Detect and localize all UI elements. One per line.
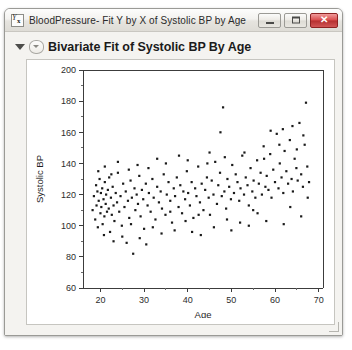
data-point [136,193,138,195]
x-tick-label: 60 [270,295,280,305]
data-point [165,162,167,164]
data-point [103,234,105,236]
data-point [117,172,119,174]
data-point [230,198,232,200]
data-point [251,190,253,192]
data-point [174,195,176,197]
data-point [194,187,196,189]
data-point [143,228,145,230]
data-point [110,197,112,199]
data-point [142,198,144,200]
data-point [226,218,228,220]
data-point [279,162,281,164]
data-point [107,189,109,191]
minimize-button[interactable] [258,13,281,28]
data-point [103,215,105,217]
data-point [213,226,215,228]
window-titlebar[interactable]: Y x BloodPressure- Fit Y by X of Systoli… [5,9,342,32]
outline-badge-icon[interactable] [29,40,44,54]
data-point [94,218,96,220]
data-point [112,240,114,242]
window-title: BloodPressure- Fit Y by X of Systolic BP… [29,15,258,26]
data-point [297,179,299,181]
data-point [283,223,285,225]
data-point [219,172,221,174]
x-tick-label: 20 [95,295,105,305]
data-point [102,223,104,225]
data-point [219,131,221,133]
data-point [295,167,297,169]
data-point [179,184,181,186]
data-point [302,186,304,188]
data-point [224,156,226,158]
data-point [276,133,278,135]
x-tick-label: 50 [226,295,236,305]
data-point [156,158,158,160]
axes-layer [79,70,323,292]
data-point [105,203,107,205]
data-point [178,155,180,157]
data-point [161,207,163,209]
data-point [200,234,202,236]
data-point [238,200,240,202]
data-point [256,159,258,161]
data-point [258,183,260,185]
close-icon: ✕ [320,15,328,25]
data-point [151,178,153,180]
data-point [245,176,247,178]
close-button[interactable]: ✕ [310,13,338,28]
data-point [195,195,197,197]
data-point [167,181,169,183]
data-point [217,184,219,186]
data-point [93,195,95,197]
data-point [156,186,158,188]
data-point [140,215,142,217]
data-point [233,192,235,194]
data-point [197,165,199,167]
data-point [191,181,193,183]
data-point [108,207,110,209]
y-tick-label: 60 [66,283,76,293]
data-point [106,211,108,213]
data-point [243,151,245,153]
data-point [201,183,203,185]
data-point [184,198,186,200]
data-point [141,189,143,191]
y-axis-title: Systolic BP [34,155,45,203]
chart-panel: 6080100120140160180200203040506070AgeSys… [26,59,335,325]
data-point [130,223,132,225]
data-point [125,190,127,192]
data-point [173,187,175,189]
data-point [171,222,173,224]
report-body: Bivariate Fit of Systolic BP By Age 6080… [5,32,342,335]
data-point [198,214,200,216]
data-point [113,220,115,222]
data-point [225,207,227,209]
data-point [208,151,210,153]
data-point [117,161,119,163]
triangle-down-icon[interactable] [15,44,25,50]
data-point [160,190,162,192]
data-point [212,193,214,195]
maximize-button[interactable] [284,13,307,28]
data-point [133,187,135,189]
data-point [226,178,228,180]
data-point [95,204,97,206]
data-point [116,201,118,203]
data-point [164,214,166,216]
data-point [129,179,131,181]
data-point [252,209,254,211]
data-point [108,176,110,178]
data-point [290,178,292,180]
axis-labels-layer: 6080100120140160180200203040506070AgeSys… [34,65,324,318]
data-point [223,190,225,192]
data-point [304,144,306,146]
data-point [145,183,147,185]
data-point [248,225,250,227]
data-point [100,192,102,194]
data-point [254,197,256,199]
data-point [287,183,289,185]
resize-grip[interactable] [328,321,339,332]
outline-header[interactable]: Bivariate Fit of Systolic BP By Age [15,37,335,56]
data-point [302,134,304,136]
